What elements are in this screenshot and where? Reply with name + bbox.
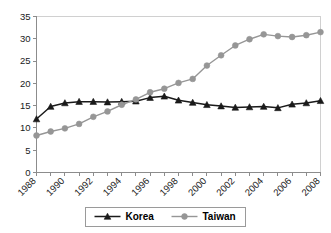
series-korea [33,93,324,122]
x-tick-label: 1996 [129,175,152,198]
x-axis-tick-labels: 1988199019921994199619982000200220042006… [15,175,322,198]
x-tick-label: 1990 [44,175,67,198]
data-point-marker [90,114,96,120]
x-tick-label: 1994 [100,175,123,198]
series-taiwan [34,29,324,138]
x-axis-ticks [37,173,321,177]
data-point-marker [261,31,267,37]
y-tick-label: 5 [25,145,30,156]
data-point-marker [303,32,309,38]
y-axis-ticks [33,17,37,173]
data-point-marker [147,89,153,95]
x-tick-label: 2006 [271,175,294,198]
x-tick-label: 1998 [157,175,180,198]
legend-label: Taiwan [203,211,236,222]
chart-canvas: 05101520253035 1988199019921994199619982… [0,0,331,233]
x-tick-label: 2004 [242,175,265,198]
data-point-marker [161,86,167,92]
data-point-marker [232,43,238,49]
data-point-marker [289,34,295,40]
legend-label: Korea [126,211,155,222]
data-point-marker [76,121,82,127]
x-tick-label: 1992 [72,175,95,198]
data-point-marker [190,76,196,82]
data-point-marker [218,52,224,58]
y-tick-label: 35 [20,11,31,22]
y-axis-tick-labels: 05101520253035 [20,11,31,178]
data-point-marker [275,33,281,39]
data-point-marker [62,125,68,131]
x-tick-label: 2000 [186,175,209,198]
data-point-marker [105,109,111,115]
y-tick-label: 30 [20,33,31,44]
axis-lines [37,17,321,173]
x-tick-label: 2002 [214,175,237,198]
y-tick-label: 20 [20,78,31,89]
data-point-marker [182,214,188,220]
data-point-marker [34,133,40,139]
data-point-marker [247,36,253,42]
data-point-marker [204,63,210,69]
data-point-marker [133,97,139,103]
y-tick-label: 15 [20,100,31,111]
data-point-marker [119,102,125,108]
plot-area-border [37,17,321,173]
x-tick-label: 2008 [299,175,322,198]
plot-area-rect [37,17,321,173]
data-point-marker [318,29,324,35]
data-point-marker [48,129,54,135]
data-point-marker [176,80,182,86]
x-tick-label: 1988 [15,175,38,198]
y-tick-label: 25 [20,55,31,66]
line-chart: 05101520253035 1988199019921994199619982… [0,0,331,233]
chart-legend: KoreaTaiwan [86,207,246,226]
data-series-layer [33,29,324,138]
y-tick-label: 10 [20,122,31,133]
